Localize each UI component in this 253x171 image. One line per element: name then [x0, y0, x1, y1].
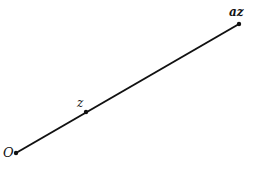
diagram-canvas: O z az — [0, 0, 253, 171]
point-az — [237, 22, 241, 26]
label-z: z — [76, 96, 84, 110]
point-origin — [14, 151, 18, 155]
point-z — [84, 110, 88, 114]
label-az: az — [229, 5, 245, 19]
segment-o-to-az — [16, 24, 239, 153]
label-origin: O — [3, 145, 14, 160]
